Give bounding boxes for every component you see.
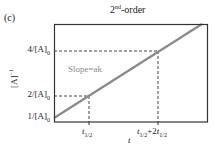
x-tick-t-half: t1/2 — [82, 126, 92, 138]
y-tick-1: 1/[A]0 — [2, 111, 50, 123]
x-axis-label: t — [128, 135, 131, 145]
y-tick-4: 4/[A]0 — [2, 44, 50, 56]
y-tick-2: 2/[A]0 — [2, 89, 50, 101]
slope-annotation: Slope=ak — [68, 64, 102, 74]
x-tick-t-half-plus-2t-half: t1/2+2t1/2 — [137, 126, 167, 138]
y-axis-label: [A]−1 — [8, 69, 19, 88]
plot-area — [0, 0, 214, 148]
